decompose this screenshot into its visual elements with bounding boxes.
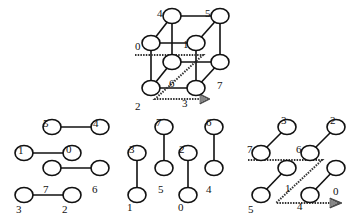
node-left-3 xyxy=(15,188,33,203)
node-label: 2 xyxy=(62,203,68,215)
node-label: 7 xyxy=(217,79,223,91)
node-cube-2 xyxy=(142,81,160,96)
node-label: 5 xyxy=(43,117,49,129)
node-left-2 xyxy=(63,188,81,203)
node-label: 0 xyxy=(135,40,141,52)
node-left-6 xyxy=(91,161,109,176)
node-label: 3 xyxy=(129,143,135,155)
node-label: 0 xyxy=(66,143,72,155)
labels-layer: 45016723541076327632541032761054 xyxy=(16,7,339,215)
node-label: 2 xyxy=(135,100,141,112)
node-label: 0 xyxy=(333,185,339,197)
node-label: 4 xyxy=(206,183,212,195)
node-label: 5 xyxy=(205,7,211,19)
node-middle-5 xyxy=(155,161,173,176)
node-label: 1 xyxy=(127,201,133,213)
node-label: 1 xyxy=(183,38,189,50)
node-label: 7 xyxy=(247,143,253,155)
node-label: 1 xyxy=(18,144,24,156)
node-label: 6 xyxy=(169,77,175,89)
node-right-1 xyxy=(278,161,296,176)
node-cube-0 xyxy=(142,36,160,51)
node-cube-7 xyxy=(211,55,229,70)
node-cube-1 xyxy=(187,36,205,51)
node-label: 4 xyxy=(93,117,99,129)
node-label: 6 xyxy=(92,183,98,195)
node-label: 0 xyxy=(178,201,184,213)
node-label: 7 xyxy=(43,183,49,195)
node-label: 7 xyxy=(156,116,162,128)
arrowhead-icon xyxy=(200,94,210,104)
node-right-0 xyxy=(327,161,345,176)
node-label: 1 xyxy=(285,182,291,194)
node-label: 3 xyxy=(16,203,22,215)
node-label: 2 xyxy=(330,114,336,126)
node-middle-4 xyxy=(205,161,223,176)
node-label: 6 xyxy=(296,143,302,155)
node-label: 3 xyxy=(182,97,188,109)
node-cube-5 xyxy=(211,9,229,24)
node-cube-4 xyxy=(163,9,181,24)
node-label: 5 xyxy=(248,203,254,215)
node-label: 6 xyxy=(206,116,212,128)
node-left-7 xyxy=(43,161,61,176)
node-cube-6 xyxy=(163,55,181,70)
node-label: 5 xyxy=(158,183,164,195)
node-right-7 xyxy=(252,146,270,161)
node-label: 4 xyxy=(297,200,303,212)
node-label: 4 xyxy=(157,7,163,19)
node-label: 2 xyxy=(179,143,185,155)
node-cube-3 xyxy=(187,81,205,96)
node-right-4 xyxy=(301,188,319,203)
node-right-5 xyxy=(252,188,270,203)
node-label: 3 xyxy=(281,114,287,126)
hypercube-diagram: 45016723541076327632541032761054 xyxy=(0,0,363,217)
node-right-6 xyxy=(301,146,319,161)
nodes-layer xyxy=(15,9,345,203)
